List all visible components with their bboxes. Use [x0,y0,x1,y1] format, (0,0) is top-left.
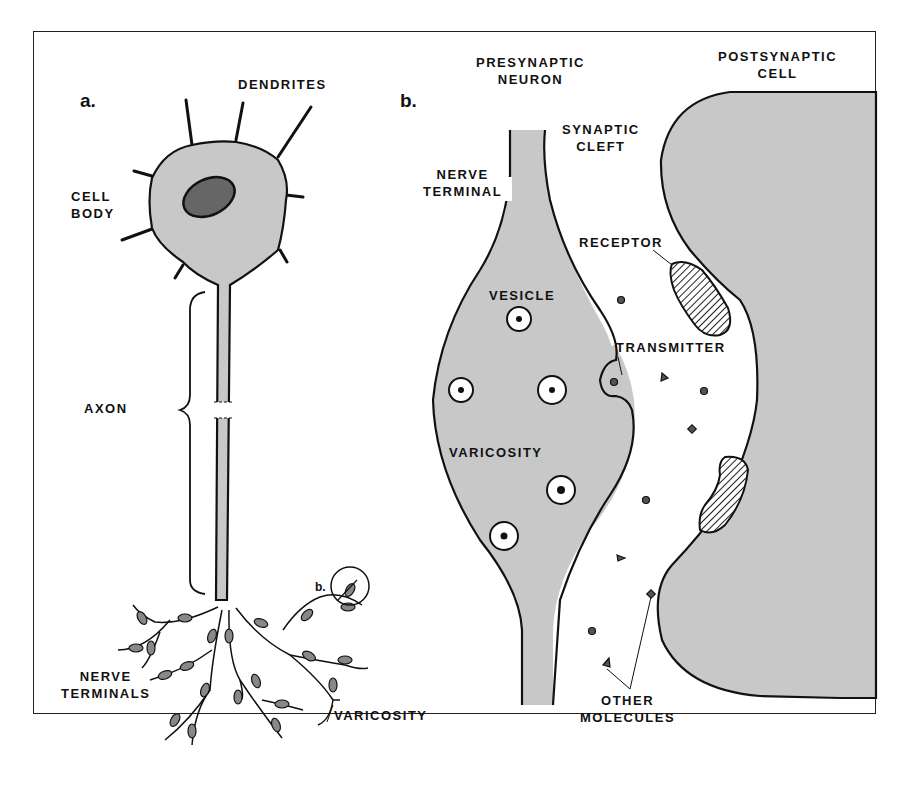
label-postsynaptic-cell: POSTSYNAPTIC CELL [718,48,837,82]
axon-brace [180,292,205,594]
label-nerve-terminal: NERVE TERMINAL [423,166,502,200]
label-synaptic-cleft: SYNAPTIC CLEFT [562,121,640,155]
label-other-molecules: OTHER MOLECULES [580,692,675,726]
label-vesicle: VESICLE [489,287,555,304]
panel-a-letter: a. [80,92,96,109]
label-transmitter: TRANSMITTER [616,339,726,356]
panel-b-letter: b. [400,92,417,109]
label-receptor: RECEPTOR [579,234,663,251]
label-nerve-terminals: NERVE TERMINALS [61,668,150,702]
label-presynaptic-neuron: PRESYNAPTIC NEURON [476,54,585,88]
varicosities [129,582,357,738]
presynaptic-varicosity [433,130,635,705]
neuron-panel-a [118,100,369,745]
label-axon: AXON [84,400,128,417]
label-inset-b: b. [315,579,326,596]
label-dendrites: DENDRITES [238,76,327,93]
label-varicosity-a: VARICOSITY [334,707,428,724]
label-varicosity-b: VARICOSITY [449,444,543,461]
postsynaptic-cell [658,92,876,698]
nerve-terminals [118,595,368,745]
label-cell-body: CELL BODY [71,188,115,222]
